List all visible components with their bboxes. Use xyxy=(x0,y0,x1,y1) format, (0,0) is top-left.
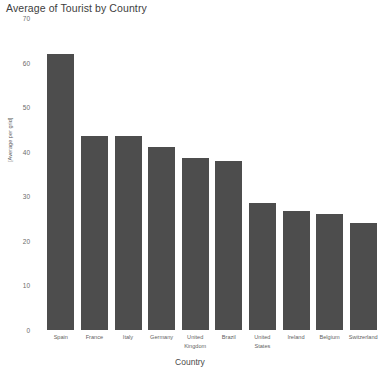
x-axis-tick-label: France xyxy=(75,333,113,342)
bar xyxy=(249,203,276,330)
x-axis-tick-label: Spain xyxy=(42,333,80,342)
bar xyxy=(115,136,142,330)
x-axis-tick-label: Switzerland xyxy=(344,333,380,342)
x-axis: SpainFranceItalyGermanyUnited KingdomBra… xyxy=(40,333,376,355)
x-axis-tick-label: Italy xyxy=(109,333,147,342)
bar xyxy=(215,161,242,330)
x-axis-tick-label: Brazil xyxy=(210,333,248,342)
bar xyxy=(148,147,175,330)
bar xyxy=(81,136,108,330)
bars-layer xyxy=(40,18,376,330)
x-axis-tick-label: United States xyxy=(243,333,281,350)
y-axis: 010203040506070 xyxy=(0,18,36,330)
y-axis-tick-label: 70 xyxy=(23,15,30,22)
x-axis-tick-label: Ireland xyxy=(277,333,315,342)
bar xyxy=(182,158,209,330)
y-axis-title: [Average per grid] xyxy=(8,134,14,148)
x-axis-tick-label: Germany xyxy=(143,333,181,342)
plot-area xyxy=(40,18,376,330)
bar-chart: Average of Tourist by Country 0102030405… xyxy=(0,0,380,375)
bar xyxy=(316,214,343,330)
bar xyxy=(350,223,377,330)
y-axis-tick-label: 40 xyxy=(23,148,30,155)
chart-title: Average of Tourist by Country xyxy=(6,2,147,14)
y-axis-tick-label: 60 xyxy=(23,59,30,66)
x-axis-title: Country xyxy=(0,357,380,367)
bar xyxy=(283,211,310,330)
y-axis-tick-label: 50 xyxy=(23,104,30,111)
y-axis-tick-label: 10 xyxy=(23,282,30,289)
y-axis-tick-label: 30 xyxy=(23,193,30,200)
y-axis-tick-label: 0 xyxy=(26,327,30,334)
x-axis-tick-label: United Kingdom xyxy=(176,333,214,350)
y-axis-tick-label: 20 xyxy=(23,237,30,244)
x-axis-tick-label: Belgium xyxy=(311,333,349,342)
y-axis-title-label: [Average per grid] xyxy=(8,148,14,162)
bar xyxy=(47,54,74,330)
